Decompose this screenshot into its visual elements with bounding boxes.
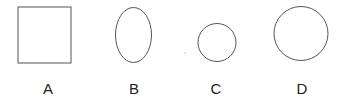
shape-b-ellipse <box>116 8 152 63</box>
shape-d-circle <box>274 7 328 61</box>
label-b: B <box>124 80 144 98</box>
label-a: A <box>38 80 58 98</box>
shape-a-square <box>18 7 71 63</box>
label-d: D <box>292 80 312 98</box>
stray-dot <box>184 52 185 53</box>
shape-c-circle <box>198 24 236 62</box>
label-c: C <box>206 80 226 98</box>
